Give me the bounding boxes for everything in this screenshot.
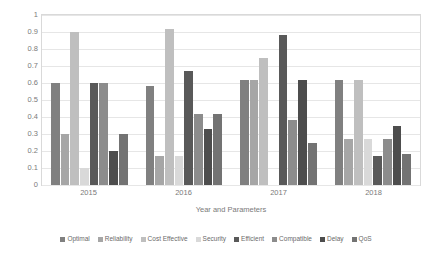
bar: [175, 156, 184, 185]
bar-group-2017: [231, 15, 326, 185]
legend-swatch-icon: [352, 237, 357, 242]
y-axis-tick-label: 0.7: [28, 62, 38, 70]
legend-item-delay[interactable]: Delay: [320, 236, 344, 243]
legend-swatch-icon: [98, 237, 103, 242]
bar: [240, 80, 249, 185]
bar: [204, 129, 213, 185]
legend-label: Cost Effective: [148, 236, 188, 243]
bar: [119, 134, 128, 185]
bar: [308, 143, 317, 186]
legend-label: QoS: [359, 236, 372, 243]
bar: [99, 83, 108, 185]
bar: [90, 83, 99, 185]
bar-group-2015: [42, 15, 137, 185]
bar: [354, 80, 363, 185]
bar: [109, 151, 118, 185]
y-axis-tick-label: 0.2: [28, 147, 38, 155]
legend-swatch-icon: [60, 237, 65, 242]
x-axis-tick-label: 2016: [136, 188, 231, 197]
bar: [383, 139, 392, 185]
bar-groups: [42, 15, 420, 185]
x-axis-tick-label: 2015: [41, 188, 136, 197]
legend-swatch-icon: [272, 237, 277, 242]
bar: [298, 80, 307, 185]
legend-swatch-icon: [141, 237, 146, 242]
bar: [393, 126, 402, 186]
bar: [335, 80, 344, 185]
y-axis-tick-label: 0.8: [28, 45, 38, 53]
x-axis-tick-labels: 2015201620172018: [41, 188, 421, 197]
bar: [51, 83, 60, 185]
legend-label: Delay: [327, 236, 344, 243]
bar: [279, 35, 288, 185]
bar: [364, 139, 373, 185]
gridline: [42, 185, 420, 186]
y-axis-tick-label: 0: [34, 181, 38, 189]
bar: [373, 156, 382, 185]
y-axis-tick-label: 0.6: [28, 79, 38, 87]
y-axis-tick-label: 0.9: [28, 28, 38, 36]
bar: [402, 154, 411, 185]
chart-legend: OptimalReliabilityCost EffectiveSecurity…: [0, 236, 432, 243]
bar-group-2016: [137, 15, 232, 185]
legend-label: Efficient: [241, 236, 264, 243]
bar: [61, 134, 70, 185]
legend-item-efficient[interactable]: Efficient: [234, 236, 264, 243]
bar: [155, 156, 164, 185]
bar: [259, 58, 268, 186]
bar: [184, 71, 193, 185]
legend-label: Compatible: [279, 236, 312, 243]
bar: [213, 114, 222, 185]
legend-swatch-icon: [234, 237, 239, 242]
x-axis-tick-label: 2017: [231, 188, 326, 197]
bar: [250, 80, 259, 185]
legend-item-compatible[interactable]: Compatible: [272, 236, 312, 243]
legend-label: Reliability: [105, 236, 133, 243]
y-axis-tick-label: 0.3: [28, 130, 38, 138]
y-axis-tick-label: 0.5: [28, 96, 38, 104]
legend-item-reliability[interactable]: Reliability: [98, 236, 133, 243]
legend-swatch-icon: [196, 237, 201, 242]
plot-area: 00.10.20.30.40.50.60.70.80.91: [41, 14, 421, 186]
y-axis-tick-label: 0.1: [28, 164, 38, 172]
bar: [344, 139, 353, 185]
bar: [194, 114, 203, 185]
y-axis-tick-label: 1: [34, 11, 38, 19]
bar-chart: 00.10.20.30.40.50.60.70.80.91 Average No…: [0, 0, 432, 269]
legend-item-security[interactable]: Security: [196, 236, 226, 243]
legend-label: Security: [203, 236, 226, 243]
x-axis-tick-label: 2018: [326, 188, 421, 197]
legend-item-qos[interactable]: QoS: [352, 236, 372, 243]
bar: [288, 120, 297, 185]
y-axis-tick-label: 0.4: [28, 113, 38, 121]
legend-label: Optimal: [67, 236, 89, 243]
bar: [70, 32, 79, 185]
bar: [165, 29, 174, 185]
bar: [146, 86, 155, 185]
bar: [80, 168, 89, 185]
legend-swatch-icon: [320, 237, 325, 242]
legend-item-cost-effective[interactable]: Cost Effective: [141, 236, 188, 243]
legend-item-optimal[interactable]: Optimal: [60, 236, 89, 243]
bar-group-2018: [326, 15, 421, 185]
x-axis-title: Year and Parameters: [41, 205, 421, 214]
